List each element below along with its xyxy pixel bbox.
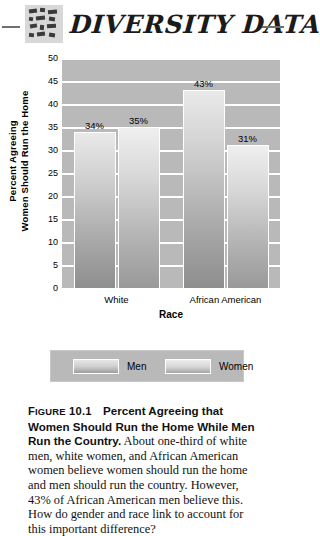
bar: 31% [227,145,269,288]
y-axis-tick-labels: 50454035302520151050 [36,54,58,292]
legend-item: Women [165,358,253,374]
x-axis-category-label: African American [171,294,280,305]
y-axis-tick-label: 30 [36,146,58,155]
legend-label: Men [127,361,146,372]
bar-value-label: 35% [129,115,148,126]
y-axis-tick-label: 15 [36,215,58,224]
women-swatch [165,359,211,374]
y-axis-tick-label: 35 [36,123,58,132]
header-title: DIVERSITY DATA [69,5,260,45]
y-axis-title-line1: Percent Agreeing [7,56,19,266]
diversity-data-header: DIVERSITY DATA [0,0,288,52]
y-axis-tick-label: 50 [36,54,58,63]
bar-value-label: 34% [85,120,104,131]
figure-caption: FIGURE 10.1 Percent Agreeing that Women … [28,404,264,536]
header-rule-right-icon [262,26,284,28]
men-swatch [73,359,119,374]
y-axis-tick-label: 40 [36,100,58,109]
y-axis-tick-label: 25 [36,169,58,178]
gridline [62,81,280,83]
y-axis-tick-label: 20 [36,192,58,201]
chart-legend: MenWomen [50,350,244,382]
bar-chart: Percent Agreeing Women Should Run the Ho… [0,54,288,344]
y-axis-tick-label: 0 [36,284,58,293]
y-axis-tick-label: 5 [36,261,58,270]
x-axis-category-label: White [62,294,171,305]
figure-number: FIGURE 10.1 [28,405,103,417]
header-rule-left-icon [2,26,20,28]
x-axis-title: Race [62,309,280,320]
bar-value-label: 43% [194,78,213,89]
bar-value-label: 31% [238,133,257,144]
y-axis-title: Percent Agreeing Women Should Run the Ho… [7,56,31,266]
gridline [62,58,280,60]
y-axis-tick-label: 10 [36,238,58,247]
caption-body: About one-third of white men, white wome… [28,434,248,536]
bar: 43% [183,90,225,288]
textured-tile-block-icon [22,2,66,46]
bar: 34% [74,132,116,288]
y-axis-tick-label: 45 [36,77,58,86]
gridline [62,104,280,106]
legend-item: Men [73,358,146,374]
y-axis-title-line2: Women Should Run the Home [19,56,31,266]
bar: 35% [118,127,160,288]
legend-label: Women [219,361,253,372]
plot-area: 34%35%43%31% [62,58,280,288]
